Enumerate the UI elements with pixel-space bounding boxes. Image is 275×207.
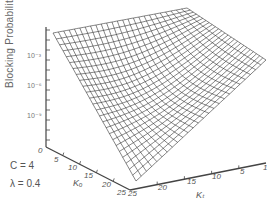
z-axis-title: Blocking Probability — [4, 0, 15, 88]
annotation-lambda: λ = 0.4 — [10, 178, 40, 189]
ko-tick-label: 5 — [54, 155, 58, 164]
kt-tick-label: 15 — [187, 177, 196, 186]
ko-tick-label: 25 — [117, 188, 126, 197]
kt-tick-label: 25 — [128, 189, 137, 198]
ko-axis-name: Kₒ — [73, 178, 83, 188]
surface-plot — [0, 0, 275, 207]
kt-tick-label: 1 — [263, 163, 267, 172]
kt-tick-label: 5 — [240, 167, 244, 176]
ko-tick-label: 15 — [84, 171, 93, 180]
z-tick-label: 10⁻³ — [27, 52, 41, 60]
z-tick-label: 10⁻⁹ — [27, 112, 42, 120]
ko-tick-label: 20 — [102, 180, 111, 189]
kt-tick-label: 20 — [158, 183, 167, 192]
annotation-c: C = 4 — [10, 160, 34, 171]
kt-axis-name: Kₜ — [196, 190, 205, 200]
surface-mesh — [53, 8, 266, 181]
ko-tick-label: 10 — [68, 163, 77, 172]
z-tick-label: 10⁻⁶ — [27, 82, 42, 90]
kt-tick-label: 10 — [212, 172, 221, 181]
ko-tick-label: 0 — [38, 146, 42, 155]
